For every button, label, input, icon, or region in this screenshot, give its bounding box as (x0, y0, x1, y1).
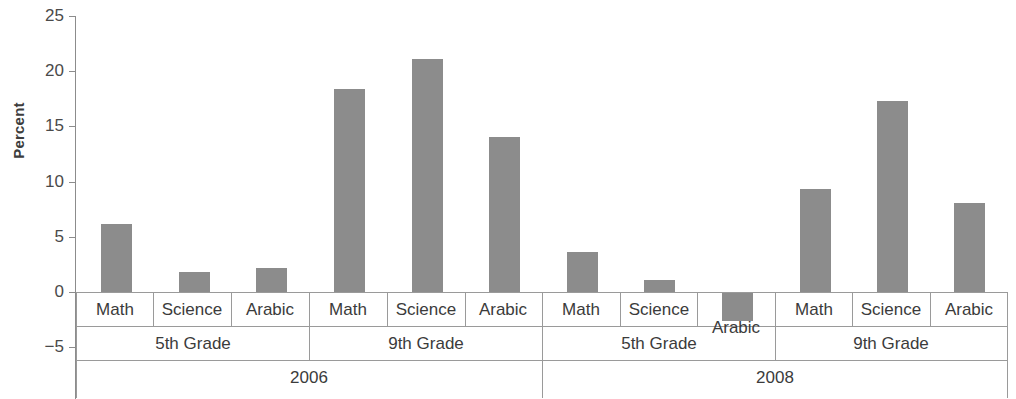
bar (179, 272, 210, 292)
subject-label: Science (396, 300, 456, 320)
grade-label: 5th Grade (155, 334, 231, 354)
year-label: 2006 (290, 368, 328, 388)
bar (334, 89, 365, 292)
subject-divider (231, 292, 232, 326)
year-divider (542, 292, 543, 398)
subject-label: Science (861, 300, 921, 320)
table-left-border (76, 292, 77, 398)
bar-chart: Percent 2520151050−5 Math Science Arabic (0, 0, 1016, 399)
subject-divider (697, 292, 698, 326)
subject-label: Math (795, 300, 833, 320)
subject-label: Science (162, 300, 222, 320)
subject-label: Arabic (479, 300, 527, 320)
subject-divider (387, 292, 388, 326)
bar (567, 252, 598, 292)
year-label: 2008 (756, 368, 794, 388)
grade-label: 9th Grade (388, 334, 464, 354)
bar (800, 189, 831, 292)
subject-divider (852, 292, 853, 326)
subject-divider (465, 292, 466, 326)
table-right-border (1007, 292, 1008, 398)
grade-label: 9th Grade (853, 334, 929, 354)
subject-label: Arabic (945, 300, 993, 320)
subject-label: Arabic (712, 318, 760, 338)
bar (256, 268, 287, 292)
bar (412, 59, 443, 292)
subject-label: Math (96, 300, 134, 320)
bar (877, 101, 908, 292)
subject-divider (620, 292, 621, 326)
subject-label: Arabic (246, 300, 294, 320)
subject-label: Math (329, 300, 367, 320)
bar (489, 137, 520, 292)
subject-divider (153, 292, 154, 326)
grade-label: 5th Grade (621, 334, 697, 354)
grade-divider (309, 292, 310, 360)
subject-divider (930, 292, 931, 326)
grade-divider (775, 292, 776, 360)
bar (101, 224, 132, 292)
category-label-table: Math Science Arabic Math Science Arabic … (76, 292, 1008, 398)
subject-label: Science (629, 300, 689, 320)
bar (644, 280, 675, 292)
subject-label: Math (562, 300, 600, 320)
bar (954, 203, 985, 292)
